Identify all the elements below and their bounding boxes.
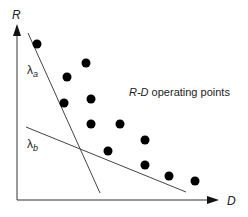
x-axis-label: D	[227, 194, 236, 208]
lambda-b-label: λb	[27, 137, 38, 153]
operating-point	[165, 172, 174, 181]
operating-point	[141, 136, 150, 145]
lambda-a-label: λa	[27, 63, 38, 79]
operating-point	[60, 99, 69, 108]
operating-point	[141, 161, 150, 170]
operating-points-label: R-D operating points	[129, 86, 230, 98]
operating-point	[63, 73, 72, 82]
rd-diagram: R D λa λb R-D operating points	[0, 0, 248, 217]
lambda-a-line	[28, 33, 100, 193]
operating-point	[82, 59, 91, 68]
y-axis-label: R	[12, 8, 21, 22]
operating-point	[87, 95, 96, 104]
operating-point	[87, 120, 96, 129]
operating-point	[116, 120, 125, 129]
operating-point	[33, 40, 42, 49]
y-axis-arrow-icon	[13, 24, 21, 36]
lambda-b-line	[26, 127, 186, 192]
x-axis-arrow-icon	[207, 196, 219, 204]
operating-point	[191, 177, 200, 186]
operating-point	[104, 147, 113, 156]
axes	[13, 24, 219, 204]
